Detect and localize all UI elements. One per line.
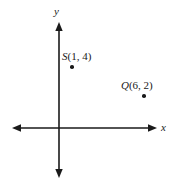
x-axis-label: x (161, 122, 166, 133)
x-axis-right-arrow-icon (148, 124, 157, 131)
point-marker-s (70, 65, 74, 69)
point-name-q: Q (121, 79, 129, 91)
point-coords-q: (6, 2) (129, 79, 153, 91)
axes-group (0, 0, 178, 185)
x-axis-left-arrow-icon (12, 124, 21, 131)
coordinate-plane-figure: y x S(1, 4) Q(6, 2) (0, 0, 178, 185)
point-coords-s: (1, 4) (68, 50, 92, 62)
point-label-q: Q(6, 2) (121, 80, 153, 91)
y-axis-up-arrow-icon (55, 22, 62, 31)
point-label-s: S(1, 4) (62, 51, 91, 62)
y-axis-down-arrow-icon (55, 169, 62, 178)
point-marker-q (142, 94, 146, 98)
y-axis-label: y (54, 6, 59, 17)
